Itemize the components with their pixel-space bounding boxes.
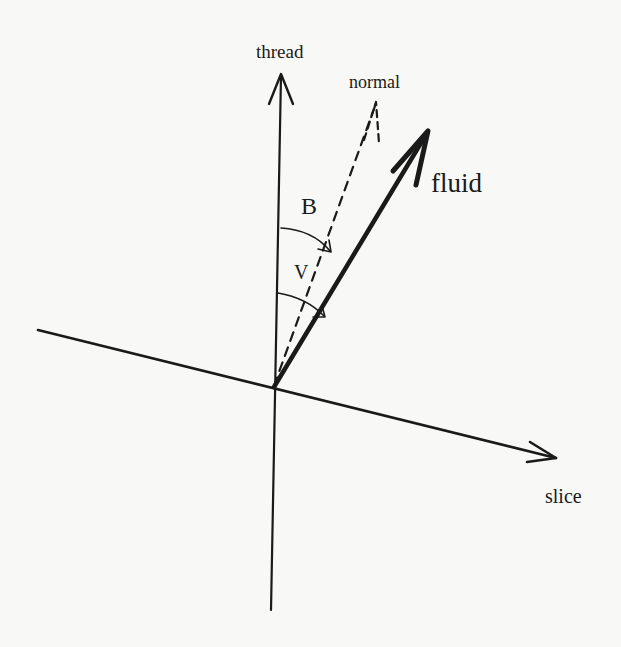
slice-axis-label: slice xyxy=(545,486,582,506)
fluid-vector-label: fluid xyxy=(431,170,482,197)
normal-vector-label: normal xyxy=(349,73,400,91)
angle-v-label: V xyxy=(294,262,308,282)
angle-b-label: B xyxy=(301,194,317,218)
thread-axis xyxy=(269,74,293,610)
thread-axis-label: thread xyxy=(256,42,303,61)
vector-diagram xyxy=(0,0,621,647)
normal-arrowhead-icon xyxy=(364,102,379,143)
diagram-page: thread normal fluid slice B V xyxy=(0,0,621,647)
normal-vector xyxy=(274,102,379,386)
